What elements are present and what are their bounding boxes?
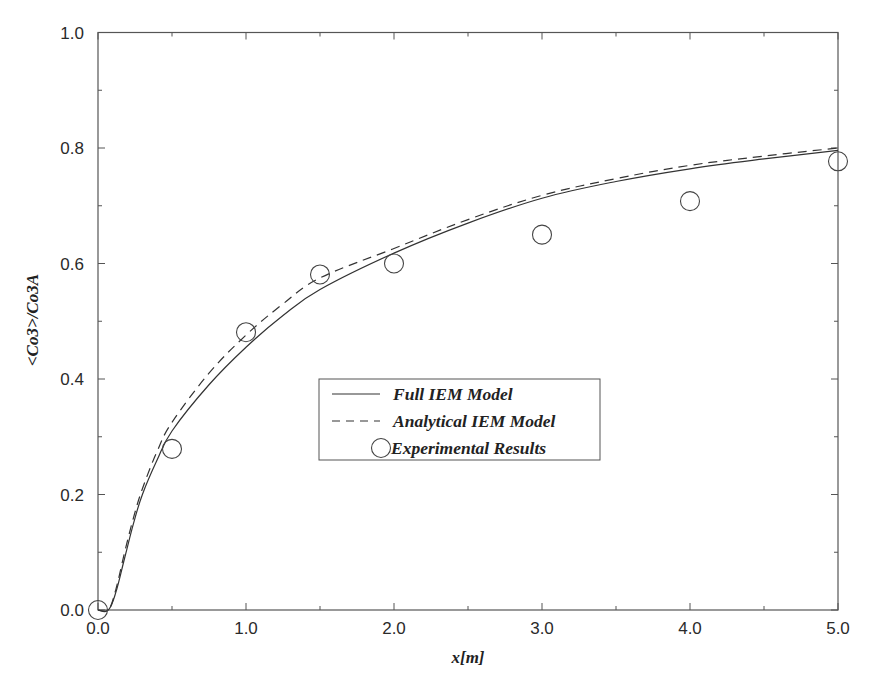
x-tick-label: 4.0 — [678, 619, 702, 638]
line-chart: 0.01.02.03.04.05.0 0.00.20.40.60.81.0 x[… — [0, 0, 870, 685]
y-tick-label: 0.0 — [60, 601, 84, 620]
legend-item-experimental: Experimental Results — [390, 438, 546, 458]
legend-item-analytical-iem: Analytical IEM Model — [392, 411, 556, 431]
y-axis-title: <Co3>/Co3A — [23, 274, 42, 366]
y-tick-label: 0.4 — [60, 370, 84, 389]
y-tick-label: 0.8 — [60, 139, 84, 158]
legend: Full IEM Model Analytical IEM Model Expe… — [319, 379, 600, 460]
x-tick-label: 3.0 — [530, 619, 554, 638]
chart-background — [0, 0, 870, 685]
x-tick-label: 5.0 — [826, 619, 850, 638]
x-axis-title: x[m] — [450, 648, 484, 667]
y-tick-label: 0.6 — [60, 255, 84, 274]
x-tick-label: 0.0 — [86, 619, 110, 638]
x-tick-label: 2.0 — [382, 619, 406, 638]
y-tick-label: 1.0 — [60, 24, 84, 43]
legend-item-full-iem: Full IEM Model — [392, 384, 513, 404]
x-tick-label: 1.0 — [234, 619, 258, 638]
y-tick-label: 0.2 — [60, 486, 84, 505]
